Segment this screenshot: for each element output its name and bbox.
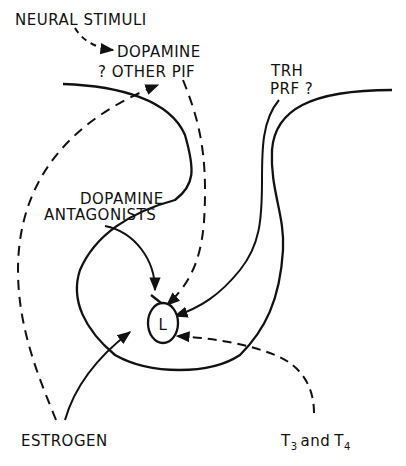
estrogen-to-l-arrow — [65, 332, 130, 420]
and-word: and — [301, 432, 331, 450]
estrogen-to-dopamine-arrow — [18, 85, 158, 420]
neural-stimuli-arrow — [75, 28, 113, 50]
prf-label: PRF ? — [270, 80, 313, 98]
thyroid-hormones-label: T3andT4 — [280, 432, 351, 452]
dopamine-antagonists-label-2: ANTAGONISTS — [44, 206, 156, 224]
dopamine-antagonists-arrow — [105, 226, 155, 290]
t4-letter: T — [333, 432, 344, 450]
trh-arrow — [175, 100, 279, 316]
other-pif-label: ? OTHER PIF — [98, 63, 195, 81]
t4-subscript: 4 — [344, 441, 351, 452]
t3-letter: T — [280, 432, 291, 450]
estrogen-label: ESTROGEN — [21, 432, 108, 450]
dopamine-label: DOPAMINE — [117, 43, 201, 61]
trh-label: TRH — [270, 62, 303, 80]
diagram-canvas: L NEURAL STIMULI DOPAMINE ? OTHER PIF TR… — [0, 0, 406, 466]
t3-subscript: 3 — [291, 441, 298, 452]
lactotroph-label: L — [159, 316, 168, 334]
dopamine-inhibit-line — [167, 80, 205, 305]
neural-stimuli-label: NEURAL STIMULI — [15, 11, 147, 29]
